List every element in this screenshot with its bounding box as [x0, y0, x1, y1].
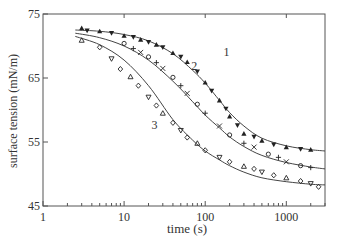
marker-open-triangle — [128, 74, 133, 79]
marker-open-triangle — [109, 57, 114, 62]
curve-label-2: 2 — [191, 59, 197, 73]
marker-filled-triangle — [185, 59, 190, 64]
x-axis-label: time (s) — [167, 221, 207, 236]
marker-filled-triangle — [251, 135, 256, 140]
marker-open-diamond — [185, 135, 190, 140]
marker-open-circle — [122, 41, 126, 45]
curve-label-1: 1 — [223, 45, 229, 59]
marker-open-triangle — [160, 111, 165, 116]
x-tick-label: 1 — [40, 210, 46, 224]
marker-open-triangle — [259, 170, 264, 175]
marker-filled-triangle — [235, 123, 240, 128]
y-axis-ticks: 45556575 — [28, 7, 48, 213]
marker-open-diamond — [252, 166, 257, 171]
y-tick-label: 55 — [28, 135, 40, 149]
marker-open-circle — [146, 55, 150, 59]
marker-plus — [131, 46, 136, 51]
surface-tension-chart: 45556575 1101001000 123 time (s) surface… — [0, 0, 338, 243]
marker-open-triangle — [284, 175, 289, 180]
marker-open-circle — [171, 75, 175, 79]
marker-filled-triangle — [146, 40, 151, 45]
y-tick-label: 65 — [28, 71, 40, 85]
marker-filled-triangle — [298, 147, 303, 152]
marker-open-diamond — [118, 66, 123, 71]
plot-frame — [43, 14, 325, 206]
marker-plus — [276, 155, 281, 160]
marker-open-diamond — [271, 173, 276, 178]
marker-filled-triangle — [241, 131, 246, 136]
curve-labels: 123 — [152, 45, 230, 133]
marker-open-diamond — [136, 83, 141, 88]
marker-open-triangle — [146, 95, 151, 100]
marker-cross — [252, 145, 257, 150]
curve-label-3: 3 — [152, 118, 158, 132]
marker-open-circle — [195, 102, 199, 106]
marker-open-triangle — [241, 164, 246, 169]
marker-filled-triangle — [79, 25, 84, 30]
marker-open-diamond — [227, 159, 232, 164]
marker-filled-triangle — [271, 142, 276, 147]
marker-plus — [203, 111, 208, 116]
y-tick-label: 75 — [28, 7, 40, 21]
x-tick-label: 1000 — [274, 210, 298, 224]
marker-filled-triangle — [160, 45, 165, 50]
marker-plus — [308, 165, 313, 170]
marker-filled-triangle — [109, 31, 114, 36]
y-tick-label: 45 — [28, 199, 40, 213]
marker-filled-triangle — [154, 42, 159, 47]
marker-open-diamond — [154, 103, 159, 108]
data-points — [79, 25, 321, 189]
fit-curve-1 — [75, 30, 325, 151]
marker-cross — [138, 50, 143, 55]
fit-curves — [75, 30, 325, 185]
marker-open-circle — [266, 152, 270, 156]
x-axis-ticks: 1101001000 — [40, 14, 325, 224]
x-tick-label: 10 — [118, 210, 130, 224]
marker-cross — [160, 66, 165, 71]
y-axis-label: surface tension (mN/m) — [6, 54, 20, 168]
